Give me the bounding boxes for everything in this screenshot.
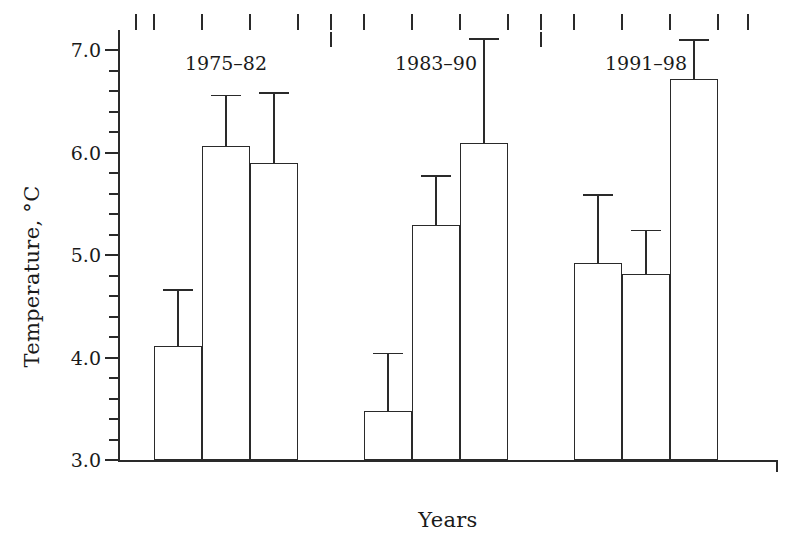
y-axis-major-tick bbox=[105, 49, 118, 51]
y-axis-major-tick bbox=[105, 152, 118, 154]
y-axis-minor-tick bbox=[109, 172, 118, 174]
y-axis-tick-label: 7.0 bbox=[71, 41, 101, 60]
error-bar-stem bbox=[693, 39, 695, 79]
error-bar-cap bbox=[583, 194, 613, 196]
x-axis-end-cap bbox=[776, 460, 778, 472]
y-axis-minor-tick bbox=[109, 439, 118, 441]
x-axis-minor-tick bbox=[330, 14, 332, 30]
x-axis-minor-tick bbox=[621, 14, 623, 30]
x-axis-minor-tick bbox=[411, 14, 413, 30]
bar bbox=[154, 346, 202, 460]
y-axis-minor-tick bbox=[109, 418, 118, 420]
error-bar-stem bbox=[273, 92, 275, 163]
y-axis-minor-tick bbox=[109, 90, 118, 92]
y-axis-minor-tick bbox=[109, 398, 118, 400]
error-bar-stem bbox=[597, 194, 599, 264]
y-axis-minor-tick bbox=[109, 377, 118, 379]
bar bbox=[412, 225, 460, 460]
y-axis-minor-tick bbox=[109, 336, 118, 338]
bar-chart-figure: Temperature, °C 3.04.05.06.07.0 1975–821… bbox=[0, 0, 789, 553]
bar bbox=[364, 411, 412, 460]
x-axis-minor-tick bbox=[717, 14, 719, 30]
error-bar-cap bbox=[373, 353, 403, 355]
y-axis-major-tick bbox=[105, 459, 118, 461]
error-bar-cap bbox=[211, 95, 241, 97]
y-axis-minor-tick bbox=[109, 234, 118, 236]
y-axis-minor-tick bbox=[109, 131, 118, 133]
x-axis-minor-tick bbox=[201, 14, 203, 30]
y-axis-minor-tick bbox=[109, 213, 118, 215]
error-bar-stem bbox=[645, 230, 647, 274]
y-axis-line bbox=[118, 30, 120, 462]
y-axis-title: Temperature, °C bbox=[12, 0, 52, 553]
x-axis-minor-tick bbox=[747, 14, 749, 30]
x-axis-minor-tick bbox=[297, 14, 299, 30]
y-axis-major-tick bbox=[105, 357, 118, 359]
bar bbox=[670, 79, 718, 460]
x-axis-group-label: 1983–90 bbox=[395, 52, 477, 74]
x-axis-title: Years bbox=[118, 508, 778, 532]
error-bar-stem bbox=[225, 95, 227, 146]
error-bar-cap bbox=[163, 289, 193, 291]
bar bbox=[622, 274, 670, 460]
error-bar-stem bbox=[387, 353, 389, 411]
error-bar-cap bbox=[259, 92, 289, 94]
y-axis-tick-label: 3.0 bbox=[71, 451, 101, 470]
x-axis-minor-tick bbox=[573, 14, 575, 30]
bar bbox=[250, 163, 298, 460]
x-axis-minor-tick bbox=[363, 14, 365, 30]
bar bbox=[574, 263, 622, 460]
x-axis-line bbox=[118, 460, 778, 462]
y-axis-major-tick bbox=[105, 254, 118, 256]
error-bar-stem bbox=[177, 289, 179, 346]
error-bar-cap bbox=[679, 39, 709, 41]
bar bbox=[202, 146, 250, 460]
x-axis-minor-tick bbox=[249, 14, 251, 30]
y-axis-tick-label: 6.0 bbox=[71, 143, 101, 162]
x-axis-minor-tick bbox=[135, 14, 137, 30]
bar bbox=[460, 143, 508, 460]
x-axis-group-label: 1991–98 bbox=[605, 52, 687, 74]
y-axis-minor-tick bbox=[109, 193, 118, 195]
y-axis-minor-tick bbox=[109, 70, 118, 72]
y-axis-minor-tick bbox=[109, 316, 118, 318]
x-axis-group-separator-tick bbox=[330, 32, 332, 47]
x-axis-minor-tick bbox=[540, 14, 542, 30]
y-axis-minor-tick bbox=[109, 275, 118, 277]
y-axis-tick-label: 5.0 bbox=[71, 246, 101, 265]
error-bar-cap bbox=[631, 230, 661, 232]
y-axis-minor-tick bbox=[109, 295, 118, 297]
y-axis-tick-label: 4.0 bbox=[71, 348, 101, 367]
error-bar-stem bbox=[483, 38, 485, 142]
x-axis-minor-tick bbox=[669, 14, 671, 30]
error-bar-cap bbox=[421, 175, 451, 177]
error-bar-stem bbox=[435, 175, 437, 224]
x-axis-group-separator-tick bbox=[540, 32, 542, 47]
plot-area: 3.04.05.06.07.0 1975–821983–901991–98 bbox=[118, 30, 778, 462]
error-bar-cap bbox=[469, 38, 499, 40]
x-axis-minor-tick bbox=[507, 14, 509, 30]
x-axis-minor-tick bbox=[153, 14, 155, 30]
x-axis-minor-tick bbox=[459, 14, 461, 30]
y-axis-minor-tick bbox=[109, 111, 118, 113]
x-axis-group-label: 1975–82 bbox=[185, 52, 267, 74]
